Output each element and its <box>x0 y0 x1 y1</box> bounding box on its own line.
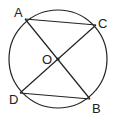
label-b: B <box>92 101 101 116</box>
label-d: D <box>9 92 18 107</box>
label-a: A <box>14 5 23 20</box>
chord-ac <box>25 19 96 25</box>
label-c: C <box>98 16 107 31</box>
chord-db <box>20 93 90 99</box>
circle-diagram: A C O D B <box>0 0 117 120</box>
label-o: O <box>42 52 52 67</box>
center-point <box>56 57 59 60</box>
